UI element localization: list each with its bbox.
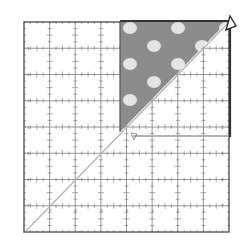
corner-arrow-icon: [226, 16, 236, 30]
quilting-diagram: 117226335444553662771: [0, 0, 247, 244]
